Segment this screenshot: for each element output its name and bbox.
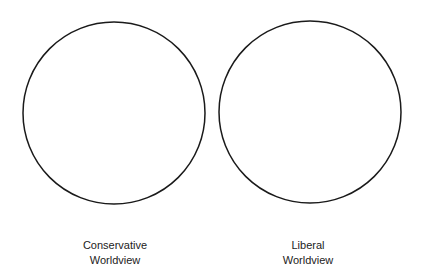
conservative-label-line1: Conservative <box>45 238 185 253</box>
conservative-circle <box>23 22 205 204</box>
liberal-circle <box>219 21 401 203</box>
liberal-label-line2: Worldview <box>238 253 378 268</box>
conservative-label: Conservative Worldview <box>45 238 185 268</box>
conservative-label-line2: Worldview <box>45 253 185 268</box>
liberal-label: Liberal Worldview <box>238 238 378 268</box>
liberal-label-line1: Liberal <box>238 238 378 253</box>
